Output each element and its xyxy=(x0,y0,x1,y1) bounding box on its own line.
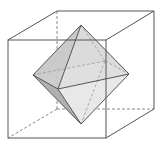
diagram-canvas xyxy=(0,0,163,144)
octahedron-in-cube-diagram xyxy=(0,0,163,144)
